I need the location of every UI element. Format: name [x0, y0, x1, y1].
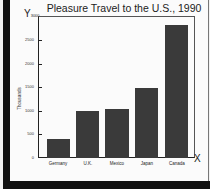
y-tick-label: 0	[14, 155, 34, 160]
y-tick-mark	[39, 87, 42, 88]
x-category-label: Japan	[132, 161, 162, 166]
y-tick-label: 1500	[14, 84, 34, 89]
bar-japan	[135, 88, 158, 158]
chart-title: Pleasure Travel to the U.S., 1990	[40, 2, 208, 14]
bottom-border-band	[3, 181, 210, 189]
x-category-label: Germany	[43, 161, 73, 166]
y-tick-mark	[39, 111, 42, 112]
bar-germany	[47, 139, 70, 158]
y-tick-mark	[39, 40, 42, 41]
y-tick-label: 2500	[14, 37, 34, 42]
x-axis-letter: X	[194, 153, 201, 164]
x-category-label: Mexico	[102, 161, 132, 166]
y-axis-title: Thousands	[17, 87, 22, 109]
bar-canada	[165, 25, 188, 158]
left-border-band	[3, 0, 10, 189]
x-category-label: U.K.	[73, 161, 103, 166]
y-tick-label: 1000	[14, 108, 34, 113]
x-category-label: Canada	[162, 161, 192, 166]
y-tick-mark	[39, 134, 42, 135]
y-tick-label: 500	[14, 131, 34, 136]
y-tick-label: 2000	[14, 61, 34, 66]
bar-uk	[76, 111, 99, 158]
bar-mexico	[105, 109, 129, 158]
y-tick-mark	[39, 64, 42, 65]
